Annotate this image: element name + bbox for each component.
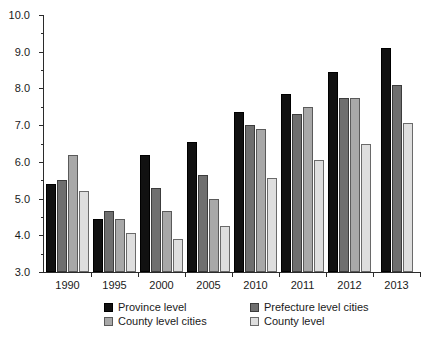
x-tick: [279, 272, 280, 277]
y-tick-minor: [41, 254, 44, 255]
x-tick: [232, 272, 233, 277]
bar: [198, 175, 208, 272]
bar: [79, 191, 89, 272]
bar: [220, 226, 230, 272]
x-tick: [420, 272, 421, 277]
legend-item[interactable]: Prefecture level cities: [250, 302, 404, 313]
bar: [303, 107, 313, 272]
bar: [151, 188, 161, 272]
y-tick-minor: [41, 70, 44, 71]
x-tick-label: 1995: [102, 279, 126, 291]
y-tick-label: 6.0: [0, 156, 30, 167]
legend-swatch-icon: [104, 317, 113, 326]
y-tick-label: 8.0: [0, 83, 30, 94]
legend-item[interactable]: Province level: [104, 302, 236, 313]
y-tick-label: 3.0: [0, 267, 30, 278]
legend-label: County level: [264, 316, 325, 327]
bar: [314, 160, 324, 272]
x-tick-label: 1990: [55, 279, 79, 291]
x-tick: [185, 272, 186, 277]
y-tick-label: 10.0: [0, 10, 30, 21]
y-tick-major: [39, 235, 44, 236]
bar: [292, 114, 302, 272]
y-tick-major: [39, 272, 44, 273]
x-tick: [326, 272, 327, 277]
legend-swatch-icon: [250, 303, 259, 312]
y-tick-label: 5.0: [0, 193, 30, 204]
legend-label: County level cities: [118, 316, 207, 327]
bar: [162, 211, 172, 272]
bar: [126, 233, 136, 272]
legend-swatch-icon: [250, 317, 259, 326]
bar: [392, 85, 402, 272]
y-tick-label: 4.0: [0, 230, 30, 241]
bar: [140, 155, 150, 272]
bar: [234, 112, 244, 272]
bar: [328, 72, 338, 272]
chart-legend: Province levelPrefecture level citiesCou…: [104, 302, 404, 327]
y-tick-major: [39, 125, 44, 126]
bar: [339, 98, 349, 272]
bar: [350, 98, 360, 272]
y-tick-major: [39, 15, 44, 16]
legend-swatch-icon: [104, 303, 113, 312]
y-tick-major: [39, 88, 44, 89]
bar: [361, 144, 371, 273]
bar: [173, 239, 183, 272]
y-tick-minor: [41, 144, 44, 145]
x-tick-label: 2012: [337, 279, 361, 291]
bar: [93, 219, 103, 272]
y-tick-minor: [41, 107, 44, 108]
bar-chart-figure: 3.04.05.06.07.08.09.010.0 19901995200020…: [0, 0, 430, 338]
y-tick-minor: [41, 33, 44, 34]
x-tick: [373, 272, 374, 277]
bar: [281, 94, 291, 272]
y-tick-major: [39, 52, 44, 53]
y-tick-label: 7.0: [0, 120, 30, 131]
bar: [187, 142, 197, 272]
x-tick: [91, 272, 92, 277]
bar: [381, 48, 391, 272]
bar: [115, 219, 125, 272]
legend-item[interactable]: County level cities: [104, 316, 236, 327]
x-tick-label: 2000: [149, 279, 173, 291]
y-tick-minor: [41, 217, 44, 218]
bar: [68, 155, 78, 272]
bar: [209, 199, 219, 272]
bar: [403, 123, 413, 272]
bar: [245, 125, 255, 272]
bar: [267, 178, 277, 272]
legend-label: Province level: [118, 302, 186, 313]
y-tick-label: 9.0: [0, 46, 30, 57]
x-tick-label: 2005: [196, 279, 220, 291]
bar: [104, 211, 114, 272]
plot-area: 3.04.05.06.07.08.09.010.0 19901995200020…: [44, 15, 420, 272]
bar: [57, 180, 67, 272]
bar: [256, 129, 266, 272]
y-tick-major: [39, 162, 44, 163]
legend-label: Prefecture level cities: [264, 302, 369, 313]
legend-item[interactable]: County level: [250, 316, 404, 327]
x-tick-label: 2013: [384, 279, 408, 291]
x-tick-label: 2010: [243, 279, 267, 291]
x-tick: [138, 272, 139, 277]
y-tick-major: [39, 199, 44, 200]
x-tick-label: 2011: [291, 279, 315, 291]
y-tick-minor: [41, 180, 44, 181]
bar: [46, 184, 56, 272]
